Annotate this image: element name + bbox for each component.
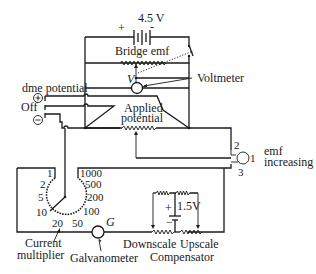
dme-minus-wire: [45, 114, 120, 128]
emf-increasing-label-line2: increasing: [264, 155, 313, 169]
multiplier-left-1: 1: [47, 167, 53, 179]
upscale-label: Upscale: [180, 237, 219, 251]
multiplier-right-100: 100: [83, 205, 100, 217]
current-multiplier-label-line2: multiplier: [17, 248, 64, 262]
compensator-label: Compensator: [150, 250, 214, 264]
multiplier-left-2: 2: [40, 178, 46, 190]
dme-off-label[interactable]: Off: [21, 100, 37, 114]
applied-potential-label-line2: potential: [121, 111, 164, 125]
compensator-top-resistor-left: [156, 191, 170, 195]
main-battery-plus-label: +: [118, 21, 125, 35]
junction-dot: [84, 127, 87, 130]
emf-switch-knob[interactable]: [237, 152, 249, 164]
dme-plus-wire: [45, 94, 189, 128]
dme-off-wire: [45, 104, 114, 128]
current-multiplier-dial[interactable]: 1 2 5 10 20 1000 500 200 100 50: [36, 167, 104, 229]
applied-potential-resistor: [122, 126, 156, 130]
main-battery: 4.5 V + -: [118, 11, 165, 45]
compensator-top-resistor-right: [176, 191, 190, 195]
multiplier-pivot: [64, 196, 67, 199]
voltmeter-icon: [132, 83, 143, 94]
emf-switch-pos3: 3: [238, 166, 244, 178]
compensator-battery-minus: −: [166, 215, 173, 229]
applied-slider-arrow-icon: [134, 131, 138, 135]
bridge-switch[interactable]: [188, 45, 193, 57]
multiplier-right-50: 50: [72, 217, 84, 229]
voltmeter-symbol: V: [127, 72, 136, 86]
emf-switch-pos2: 2: [234, 139, 240, 151]
multiplier-wiper[interactable]: [50, 197, 65, 211]
compensator: + − 1.5V: [151, 191, 202, 234]
dme-switch[interactable]: Off: [21, 94, 45, 125]
applied-potential-wire: [85, 128, 231, 150]
emf-switch-pos1: 1: [250, 152, 256, 164]
voltmeter-pointer-line: [144, 78, 192, 86]
downscale-slider-arrow-icon: [151, 225, 155, 229]
voltmeter-pointer-arrow-icon: [142, 84, 147, 87]
circuit-diagram: 4.5 V + - Bridge emf V Voltmeter dme pot…: [0, 0, 316, 274]
multiplier-right-500: 500: [85, 178, 102, 190]
multiplier-left-10: 10: [36, 206, 48, 218]
switch-contact: [188, 45, 190, 47]
galvanometer-symbol: G: [106, 215, 115, 229]
downscale-label: Downscale: [123, 237, 176, 251]
multiplier-left-20: 20: [52, 217, 64, 229]
downscale-resistor: [152, 230, 174, 234]
multiplier-right-200: 200: [87, 191, 104, 203]
bridge-slider-arrow-icon: [134, 64, 138, 68]
compensator-battery-voltage: 1.5V: [177, 199, 201, 213]
upscale-slider-arrow-icon: [196, 225, 200, 229]
multiplier-left-5: 5: [38, 191, 44, 203]
bridge-emf-label: Bridge emf: [115, 44, 169, 58]
galvanometer-pointer-arrow-icon: [98, 238, 102, 242]
galvanometer-icon: [92, 226, 104, 238]
galvanometer-label: Galvanometer: [70, 251, 138, 265]
voltmeter-label: Voltmeter: [197, 71, 244, 85]
emf-switch[interactable]: 2 1 3: [231, 139, 256, 178]
dme-potential-label: dme potential: [22, 81, 88, 95]
upscale-resistor: [180, 230, 202, 234]
compensator-battery-plus: +: [165, 201, 172, 215]
junction-dot: [188, 127, 191, 130]
